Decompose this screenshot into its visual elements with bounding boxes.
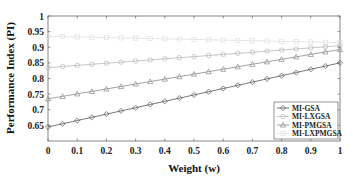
y-tick-label: 0.7 (32, 105, 44, 115)
y-tick-label: 0.65 (27, 121, 44, 131)
x-tick-label: 0.2 (100, 146, 112, 156)
x-tick-label: 1 (338, 146, 343, 156)
y-tick-label: 1 (39, 12, 44, 22)
series-mi-lxpmgsa (46, 34, 342, 44)
x-tick-label: 0 (46, 146, 51, 156)
legend-label: MI-LXPMGSA (292, 129, 343, 138)
line-chart: 00.10.20.30.40.50.60.70.80.910.650.70.75… (0, 0, 353, 177)
x-axis-title: Weight (w) (168, 162, 220, 175)
y-tick-label: 0.95 (27, 27, 44, 37)
y-tick-label: 0.75 (27, 90, 44, 100)
x-tick-label: 0.9 (305, 146, 317, 156)
y-tick-label: 0.9 (32, 43, 44, 53)
x-tick-label: 0.5 (188, 146, 200, 156)
x-tick-label: 0.3 (130, 146, 142, 156)
y-tick-label: 0.85 (27, 58, 44, 68)
y-axis-title: Performance Index (PI) (4, 22, 17, 134)
legend: MI-GSAMI-LXGSAMI-PMGSAMI-LXPMGSA (274, 102, 343, 139)
x-tick-label: 0.1 (71, 146, 83, 156)
x-tick-label: 0.4 (159, 146, 171, 156)
x-tick-label: 0.8 (276, 146, 288, 156)
y-tick-label: 0.8 (32, 74, 44, 84)
x-tick-label: 0.6 (217, 146, 229, 156)
x-tick-label: 0.7 (246, 146, 258, 156)
